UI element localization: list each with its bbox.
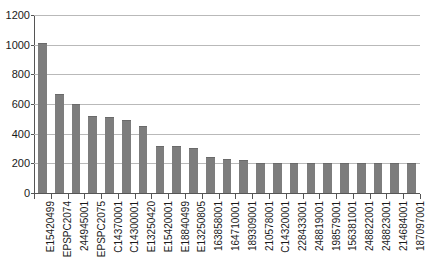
- x-axis-tick-mark: [51, 194, 52, 199]
- y-axis-tick-label: 800: [0, 69, 30, 80]
- x-axis-tick-mark: [84, 194, 85, 199]
- bar: [357, 163, 366, 193]
- x-axis-tick-mark: [151, 194, 152, 199]
- y-axis-tick-label: 0: [0, 188, 30, 199]
- x-axis-tick-marks: [34, 194, 420, 200]
- bars-layer: [34, 15, 420, 193]
- x-axis-tick-mark: [370, 194, 371, 199]
- x-axis-tick-mark: [353, 194, 354, 199]
- bar: [88, 116, 97, 193]
- x-axis-tick-mark: [252, 194, 253, 199]
- x-axis-tick-label: 228433001: [298, 201, 308, 251]
- x-axis-tick-label: 248819001: [315, 201, 325, 251]
- x-axis-tick-mark: [303, 194, 304, 199]
- y-axis-tick-label: 1200: [0, 10, 30, 21]
- x-axis-tick-label: 248822001: [365, 201, 375, 251]
- x-axis-tick-label: 187097001: [416, 201, 426, 251]
- x-axis-tick-mark: [403, 194, 404, 199]
- bar: [340, 163, 349, 193]
- x-axis-tick-label: E13250420: [147, 201, 157, 252]
- x-axis-tick-mark: [34, 194, 35, 199]
- x-axis-tick-mark: [286, 194, 287, 199]
- bar: [390, 163, 399, 193]
- x-axis-tick-label: EPSPC2074: [63, 201, 73, 257]
- bar: [256, 163, 265, 193]
- bar: [72, 104, 81, 193]
- x-axis-tick-mark: [118, 194, 119, 199]
- x-axis-tick-label: 189309001: [248, 201, 258, 251]
- x-axis-tick-label: E13250805: [197, 201, 207, 252]
- x-axis-tick-mark: [101, 194, 102, 199]
- bar: [206, 157, 215, 193]
- x-axis-tick-label: 214684001: [399, 201, 409, 251]
- x-axis-tick-label: 163858001: [214, 201, 224, 251]
- bar: [172, 146, 181, 193]
- bar: [189, 148, 198, 193]
- x-axis-tick-label: E15420001: [164, 201, 174, 252]
- bar: [38, 43, 47, 193]
- x-axis-tick-label: C14370001: [114, 201, 124, 253]
- bar: [407, 163, 416, 193]
- x-axis-tick-label: E18840499: [181, 201, 191, 252]
- x-axis-tick-mark: [269, 194, 270, 199]
- y-axis-tick-label: 400: [0, 129, 30, 140]
- bar: [55, 94, 64, 193]
- bar: [374, 163, 383, 193]
- x-axis-tick-mark: [336, 194, 337, 199]
- x-axis-tick-label: 210578001: [265, 201, 275, 251]
- x-axis-tick-label: EPSPC2075: [97, 201, 107, 257]
- y-axis-tick-label: 600: [0, 99, 30, 110]
- x-axis-tick-mark: [219, 194, 220, 199]
- x-axis-tick-mark: [235, 194, 236, 199]
- x-axis-tick-label: E15420499: [46, 201, 56, 252]
- x-axis-tick-mark: [135, 194, 136, 199]
- bar: [139, 126, 148, 193]
- bar: [105, 117, 114, 193]
- x-axis-tick-label: 164710001: [231, 201, 241, 251]
- plot-area: [34, 15, 420, 193]
- x-axis-tick-mark: [420, 194, 421, 199]
- x-axis-tick-label: 156381001: [348, 201, 358, 251]
- bar: [156, 146, 165, 193]
- x-axis-tick-label: 248823001: [382, 201, 392, 251]
- bar: [239, 160, 248, 193]
- y-axis-tick-label: 1000: [0, 40, 30, 51]
- x-axis-tick-mark: [168, 194, 169, 199]
- x-axis-tick-mark: [68, 194, 69, 199]
- bar: [273, 163, 282, 193]
- bar: [122, 120, 131, 193]
- x-axis-tick-label: C14320001: [281, 201, 291, 253]
- y-axis-tick-label: 200: [0, 158, 30, 169]
- bar: [223, 159, 232, 193]
- bar: [307, 163, 316, 193]
- x-axis-tick-mark: [319, 194, 320, 199]
- x-axis-tick-mark: [185, 194, 186, 199]
- x-axis-tick-label: 244945001: [80, 201, 90, 251]
- bar: [290, 163, 299, 193]
- bar-chart-figure: 020040060080010001200 E15420499EPSPC2074…: [0, 0, 427, 278]
- x-axis-tick-mark: [386, 194, 387, 199]
- x-axis-tick-label: 198579001: [332, 201, 342, 251]
- y-axis-tick-labels: 020040060080010001200: [0, 0, 30, 278]
- bar: [323, 163, 332, 193]
- x-axis-tick-mark: [202, 194, 203, 199]
- x-axis-tick-label: C14300001: [130, 201, 140, 253]
- x-axis-tick-labels: E15420499EPSPC2074244945001EPSPC2075C143…: [34, 201, 420, 278]
